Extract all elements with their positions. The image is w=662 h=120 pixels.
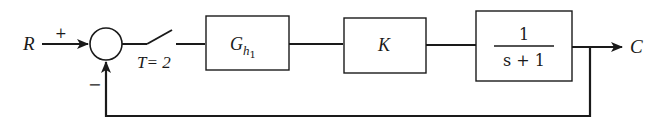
- minus-sign: −: [88, 75, 101, 94]
- input-label-r: R: [22, 33, 35, 54]
- block-diagram: R + − T= 2 Gh1 K 1 s + 1 C: [0, 0, 662, 120]
- sampler-period-label: T= 2: [137, 53, 171, 72]
- output-label-c: C: [630, 36, 643, 57]
- sampler-switch: [147, 30, 172, 44]
- plant-denominator: s + 1: [503, 51, 545, 70]
- block-gain-label: K: [377, 35, 391, 55]
- summing-junction: [90, 28, 122, 60]
- plant-numerator: 1: [519, 25, 529, 44]
- plus-sign: +: [55, 25, 67, 41]
